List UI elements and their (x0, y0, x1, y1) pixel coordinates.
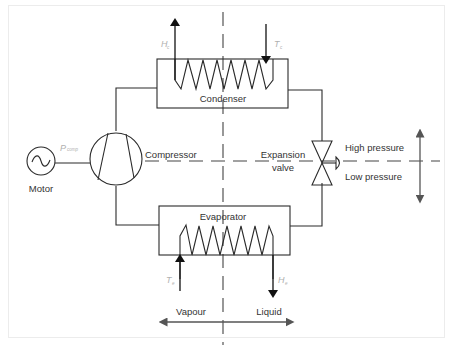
high-pressure-label: High pressure (345, 142, 404, 153)
condenser-coil (175, 59, 273, 89)
expansion-valve-icon (312, 141, 340, 185)
liquid-label: Liquid (256, 306, 281, 317)
pipe-valve-evaporator (290, 183, 322, 226)
power-compressor-symbol: P (60, 143, 66, 153)
evaporator-label: Evaporator (200, 211, 246, 222)
heat-evaporator-symbol: H (278, 275, 285, 285)
pipe-compressor-condenser (116, 88, 157, 131)
motor-icon (27, 147, 55, 175)
pipe-evaporator-compressor (116, 186, 159, 225)
temp-condenser-subscript: c (280, 45, 283, 50)
compressor-icon (90, 133, 142, 185)
evaporator-coil (180, 225, 273, 279)
expansion-valve-label-line1: Expansion (261, 149, 305, 160)
power-compressor-subscript: comp (67, 147, 79, 152)
condenser-label: Condenser (200, 93, 246, 104)
motor-label: Motor (29, 183, 53, 194)
low-pressure-label: Low pressure (345, 171, 402, 182)
vapour-label: Vapour (176, 306, 206, 317)
heat-evaporator-subscript: e (285, 281, 288, 286)
refrigeration-cycle-diagram: Condenser H c T c Evaporator T e H e Com… (0, 0, 453, 357)
pipe-condenser-valve (288, 90, 322, 141)
expansion-valve-label-line2: valve (272, 162, 294, 173)
temp-evaporator-subscript: e (172, 281, 175, 286)
heat-condenser-subscript: c (167, 45, 170, 50)
compressor-label: Compressor (145, 149, 197, 160)
